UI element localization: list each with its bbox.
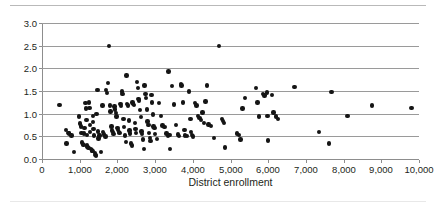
data-point <box>168 147 172 151</box>
data-point <box>94 112 98 116</box>
data-point <box>138 108 142 112</box>
data-point <box>87 100 91 104</box>
y-tick-label: 2.0 <box>24 63 37 74</box>
data-point <box>185 134 189 138</box>
x-tick-label: 10,000 <box>404 164 433 175</box>
x-tick-mark <box>231 160 232 163</box>
scatter-plot-figure: 0.00.51.01.52.02.53.0 01,0002,0003,0004,… <box>0 0 436 204</box>
data-point <box>223 145 227 149</box>
data-point <box>135 80 139 84</box>
data-point <box>148 139 152 143</box>
y-tick-label: 1.5 <box>24 86 37 97</box>
data-point <box>139 115 143 119</box>
x-tick-mark <box>155 160 156 163</box>
data-point <box>155 137 159 141</box>
data-point <box>132 103 136 107</box>
data-point <box>205 83 209 87</box>
data-point <box>121 117 125 121</box>
x-tick-mark <box>344 160 345 163</box>
data-point <box>142 83 146 87</box>
data-point <box>100 103 104 107</box>
data-point <box>276 117 280 121</box>
data-point <box>181 100 185 104</box>
data-point <box>111 132 115 136</box>
data-point <box>157 101 161 105</box>
data-point <box>64 141 68 145</box>
data-point <box>255 100 259 104</box>
data-point <box>123 133 127 137</box>
data-point <box>120 92 124 96</box>
data-point <box>162 125 166 129</box>
data-point <box>152 126 156 130</box>
data-point <box>57 103 61 107</box>
data-point <box>130 143 134 147</box>
data-point <box>133 121 137 125</box>
data-point <box>222 121 226 125</box>
gridline-y <box>42 68 419 69</box>
x-tick-label: 0 <box>39 164 44 175</box>
data-point <box>137 98 141 102</box>
data-point <box>243 96 247 100</box>
data-point <box>69 133 73 137</box>
data-point <box>217 44 221 48</box>
x-tick-mark <box>193 160 194 163</box>
gridline-y <box>42 46 419 47</box>
x-tick-mark <box>80 160 81 163</box>
data-point <box>254 86 258 90</box>
x-tick-label: 1,000 <box>68 164 92 175</box>
data-point <box>150 100 154 104</box>
data-point <box>124 73 128 77</box>
data-point <box>170 84 174 88</box>
data-point <box>200 110 204 114</box>
x-tick-mark <box>306 160 307 163</box>
data-point <box>240 106 244 110</box>
data-point <box>345 114 349 118</box>
data-point <box>151 112 155 116</box>
data-point <box>127 118 131 122</box>
y-tick-label: 0.0 <box>24 154 37 165</box>
y-tick-label: 0.5 <box>24 131 37 142</box>
data-point <box>194 103 198 107</box>
x-tick-label: 8,000 <box>332 164 356 175</box>
data-point <box>166 69 170 73</box>
x-tick-mark <box>268 160 269 163</box>
data-point <box>329 90 333 94</box>
x-tick-label: 9,000 <box>369 164 393 175</box>
data-point <box>203 99 207 103</box>
y-tick-mark <box>39 91 42 92</box>
figure-bottom-divider <box>10 201 426 202</box>
data-point <box>209 124 213 128</box>
data-point <box>174 123 178 127</box>
data-point <box>105 91 109 95</box>
x-axis-title: District enrollment <box>42 176 419 188</box>
data-point <box>167 133 171 137</box>
data-point <box>141 137 145 141</box>
data-point <box>82 126 86 130</box>
data-point <box>103 134 107 138</box>
data-point <box>147 131 151 135</box>
data-point <box>265 90 269 94</box>
data-point <box>94 154 98 158</box>
data-point <box>99 150 103 154</box>
x-tick-mark <box>381 160 382 163</box>
data-point <box>91 120 95 124</box>
x-tick-label: 6,000 <box>256 164 280 175</box>
data-point <box>136 86 140 90</box>
y-tick-mark <box>39 46 42 47</box>
data-point <box>77 114 81 118</box>
data-point <box>265 114 269 118</box>
data-point <box>238 137 242 141</box>
data-point <box>177 134 181 138</box>
data-point <box>87 106 91 110</box>
data-point <box>187 89 191 93</box>
data-point <box>145 107 149 111</box>
data-point <box>122 125 126 129</box>
data-point <box>97 133 101 137</box>
y-tick-label: 1.0 <box>24 109 37 120</box>
x-tick-label: 5,000 <box>219 164 243 175</box>
data-point <box>257 114 261 118</box>
y-tick-mark <box>39 23 42 24</box>
data-point <box>172 102 176 106</box>
x-tick-mark <box>117 160 118 163</box>
y-tick-mark <box>39 68 42 69</box>
